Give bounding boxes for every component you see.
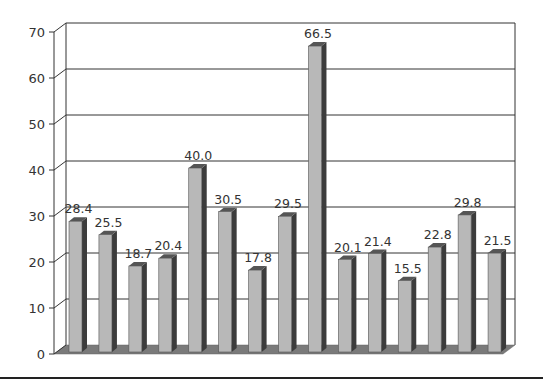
bar-value-label: 20.1	[334, 240, 362, 255]
y-tick-label: 10	[28, 301, 45, 316]
depth-tick	[54, 23, 66, 32]
bar-value-label: 28.4	[65, 201, 93, 216]
bar-chart: 010203040506070 28.425.518.720.440.030.5…	[0, 0, 543, 385]
bar-side	[381, 250, 386, 352]
bar-front	[488, 253, 501, 352]
bar-front	[99, 235, 112, 352]
bar-front	[249, 270, 262, 352]
bar-side	[292, 212, 297, 352]
depth-tick	[54, 299, 66, 308]
bar	[249, 266, 267, 352]
depth-tick	[54, 253, 66, 262]
bar-front	[279, 216, 292, 352]
bar	[159, 254, 177, 352]
bar-side	[172, 254, 177, 352]
bar-value-label: 21.5	[484, 233, 512, 248]
bar-value-label: 20.4	[154, 238, 182, 253]
bar	[488, 249, 506, 352]
bar	[398, 277, 416, 352]
bar-value-label: 66.5	[304, 26, 332, 41]
y-tick-label: 0	[37, 347, 45, 362]
bar-value-label: 29.5	[274, 196, 302, 211]
depth-tick	[54, 161, 66, 170]
bar-front	[69, 221, 82, 352]
bar-value-label: 22.8	[424, 227, 452, 242]
bar-front	[428, 247, 441, 352]
bar	[428, 243, 446, 352]
bar-side	[501, 249, 506, 352]
bottom-divider	[0, 377, 543, 379]
bar	[189, 164, 207, 352]
bar-value-label: 25.5	[95, 215, 123, 230]
bar-front	[458, 215, 471, 352]
bar	[338, 256, 356, 352]
bar-front	[398, 281, 411, 352]
bar	[308, 42, 326, 352]
bar-side	[262, 266, 267, 352]
bar-side	[411, 277, 416, 352]
bar-side	[142, 262, 147, 352]
bar-front	[368, 254, 381, 352]
y-tick-label: 20	[28, 255, 45, 270]
y-tick-label: 60	[28, 71, 45, 86]
bar	[99, 231, 117, 352]
y-axis: 010203040506070	[28, 23, 66, 362]
y-tick-label: 30	[28, 209, 45, 224]
bar-side	[471, 211, 476, 352]
bar-side	[351, 256, 356, 352]
bar	[69, 217, 87, 352]
bar-side	[112, 231, 117, 352]
bar-value-label: 21.4	[364, 234, 392, 249]
bar-front	[189, 168, 202, 352]
bar-front	[219, 212, 232, 352]
bar-side	[321, 42, 326, 352]
bar-front	[308, 46, 321, 352]
bar-side	[82, 217, 87, 352]
bar-value-label: 29.8	[454, 195, 482, 210]
bar-value-label: 15.5	[394, 261, 422, 276]
depth-tick	[54, 115, 66, 124]
bar	[458, 211, 476, 352]
bar-side	[441, 243, 446, 352]
bar	[368, 250, 386, 352]
bar-value-label: 40.0	[184, 148, 212, 163]
bar	[129, 262, 147, 352]
bar-front	[338, 260, 351, 352]
bar	[279, 212, 297, 352]
bar	[219, 208, 237, 352]
bar-value-label: 17.8	[244, 250, 272, 265]
depth-tick	[54, 69, 66, 78]
bar-value-label: 18.7	[124, 246, 152, 261]
bar-side	[202, 164, 207, 352]
bar-front	[159, 258, 172, 352]
bar-value-label: 30.5	[214, 192, 242, 207]
y-tick-label: 70	[28, 25, 45, 40]
bar-front	[129, 266, 142, 352]
y-tick-label: 50	[28, 117, 45, 132]
chart-canvas: 010203040506070 28.425.518.720.440.030.5…	[0, 0, 543, 385]
bar-side	[232, 208, 237, 352]
y-tick-label: 40	[28, 163, 45, 178]
